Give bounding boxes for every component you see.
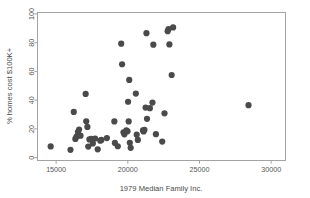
scatter-point — [134, 132, 140, 138]
scatter-point — [124, 128, 130, 134]
scatter-point — [149, 99, 155, 105]
scatter-point — [118, 41, 124, 47]
y-tick-label: 100 — [27, 8, 36, 20]
x-tick-label: 25000 — [189, 165, 209, 174]
scatter-point — [115, 143, 121, 149]
scatter-point — [77, 133, 83, 139]
y-tick-label: 0 — [27, 156, 36, 160]
y-tick-label: 40 — [27, 96, 36, 104]
y-axis-title: % homes cost $100K+ — [5, 47, 14, 124]
scatter-point — [166, 41, 172, 47]
scatter-point — [143, 30, 149, 36]
scatter-point — [133, 90, 139, 96]
scatter-chart: 15000200002500030000 020406080100 1979 M… — [0, 0, 310, 198]
scatter-point — [150, 42, 156, 48]
scatter-point — [144, 116, 150, 122]
scatter-point — [126, 118, 132, 124]
y-tick-label: 60 — [27, 67, 36, 75]
scatter-point — [245, 102, 251, 108]
scatter-point — [153, 131, 159, 137]
scatter-point — [161, 110, 167, 116]
scatter-point — [170, 24, 176, 30]
y-axis-ticks: 020406080100 — [27, 8, 38, 160]
scatter-point — [83, 91, 89, 97]
scatter-point — [147, 105, 153, 111]
x-tick-label: 30000 — [261, 165, 281, 174]
x-axis-ticks: 15000200002500030000 — [46, 161, 281, 174]
scatter-point — [128, 145, 134, 151]
scatter-point — [67, 147, 73, 153]
scatter-point — [159, 138, 165, 144]
scatter-point — [141, 127, 147, 133]
scatter-point — [98, 137, 104, 143]
scatter-point — [119, 61, 125, 67]
scatter-point — [169, 72, 175, 78]
scatter-point — [126, 77, 132, 83]
x-tick-label: 15000 — [46, 165, 66, 174]
x-axis-title: 1979 Median Family Inc. — [120, 184, 203, 193]
scatter-point — [125, 99, 131, 105]
plot-area: 15000200002500030000 020406080100 1979 M… — [0, 0, 310, 198]
scatter-point — [83, 118, 89, 124]
scatter-point — [95, 146, 101, 152]
scatter-point — [104, 135, 110, 141]
scatter-point — [76, 127, 82, 133]
scatter-point — [111, 118, 117, 124]
scatter-point — [48, 143, 54, 149]
scatter-point — [135, 137, 141, 143]
data-points — [48, 24, 252, 153]
scatter-point — [71, 109, 77, 115]
y-tick-label: 80 — [27, 39, 36, 47]
x-tick-label: 20000 — [118, 165, 138, 174]
scatter-point — [84, 124, 90, 130]
y-tick-label: 20 — [27, 125, 36, 133]
